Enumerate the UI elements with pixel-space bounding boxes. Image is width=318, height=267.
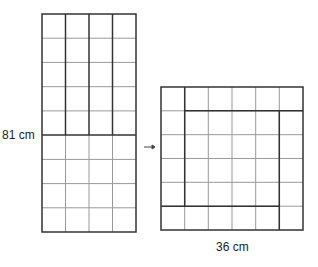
width-label: 36 cm [216, 240, 249, 254]
right-square [161, 87, 303, 230]
arrow-icon [144, 145, 155, 149]
left-rectangle [42, 14, 136, 232]
height-label: 81 cm [2, 128, 35, 142]
diagram-canvas [0, 0, 318, 267]
